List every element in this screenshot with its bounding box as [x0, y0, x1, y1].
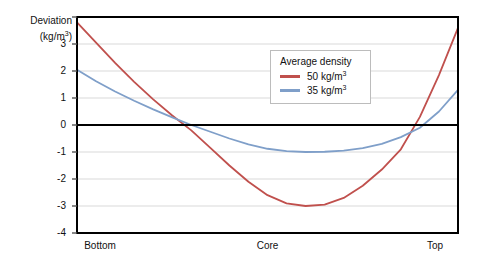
deviation-line-chart: Deviation (kg/m3) 3210-1-2-3-4 BottomCor… — [0, 0, 480, 263]
x-tick-label: Bottom — [70, 240, 130, 251]
x-tick-label: Top — [405, 240, 465, 251]
y-tick-label: 1 — [46, 93, 66, 103]
y-tick-label: -1 — [46, 147, 66, 157]
y-tick-label: 3 — [46, 39, 66, 49]
legend-label: 35 kg/m3 — [307, 84, 346, 96]
legend-label-superscript: 3 — [343, 70, 347, 77]
legend-color-swatch — [280, 89, 300, 92]
legend-entry: 35 kg/m3 — [280, 84, 361, 96]
legend-entries: 50 kg/m335 kg/m3 — [280, 70, 361, 97]
legend-entry: 50 kg/m3 — [280, 70, 361, 82]
x-tick-label: Core — [238, 240, 298, 251]
legend-title: Average density — [280, 56, 361, 67]
legend-color-swatch — [280, 75, 300, 78]
y-tick-label: -3 — [46, 201, 66, 211]
y-tick-label: 0 — [46, 120, 66, 130]
legend-label: 50 kg/m3 — [307, 70, 346, 82]
legend-label-superscript: 3 — [343, 84, 347, 91]
y-tick-label: -4 — [46, 228, 66, 238]
plot-area — [0, 0, 480, 263]
y-tick-label: 2 — [46, 66, 66, 76]
y-tick-label: -2 — [46, 174, 66, 184]
chart-legend: Average density 50 kg/m335 kg/m3 — [270, 50, 371, 104]
